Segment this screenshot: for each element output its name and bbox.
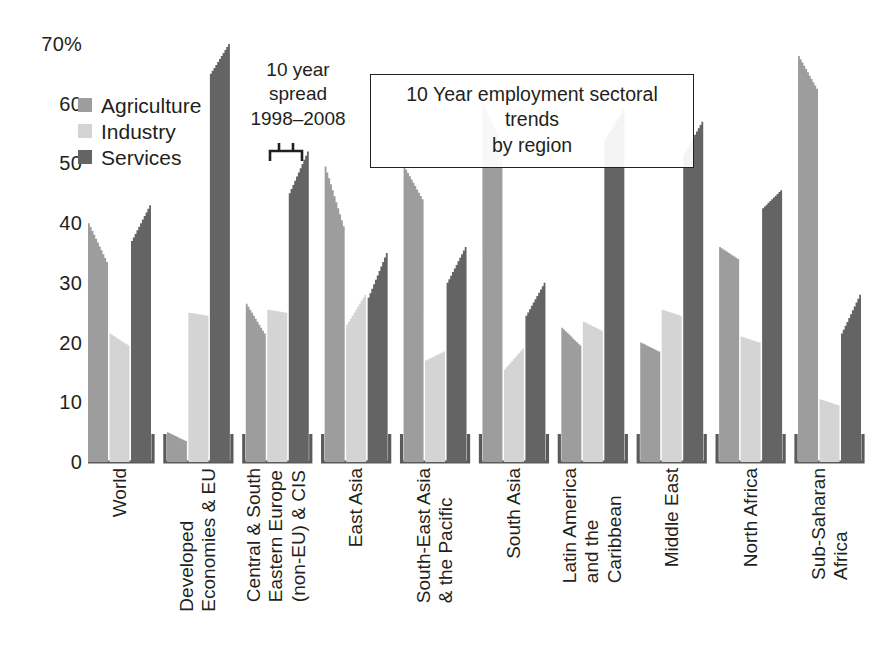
x-axis-label-line: (non-EU) & CIS: [288, 468, 310, 602]
bar-group: [88, 205, 153, 462]
bar-agriculture: [246, 304, 266, 462]
x-axis-label: South Asia: [503, 468, 525, 559]
bar-agriculture: [561, 328, 581, 462]
bar-agriculture: [167, 432, 187, 462]
bar-group: [796, 56, 863, 462]
chart-title-line2: by region: [381, 133, 683, 158]
x-axis-label: World: [108, 468, 130, 517]
bar-services: [762, 190, 782, 462]
y-axis-tick: 40: [59, 213, 82, 233]
x-axis-label-line: Caribbean: [604, 468, 626, 583]
x-axis-label-line: Sub-Saharan: [807, 468, 829, 580]
x-axis-label-line: North Africa: [739, 468, 761, 567]
y-axis: 70%6050403020100: [24, 0, 82, 653]
x-axis-label-line: Developed: [176, 468, 198, 612]
x-axis-label-group: South Asia: [482, 468, 545, 653]
bar-services: [447, 247, 467, 462]
x-axis-label: DevelopedEconomies & EU: [176, 468, 221, 612]
bar-services: [525, 283, 545, 462]
y-axis-tick: 0: [71, 452, 82, 472]
y-axis-tick: 10: [59, 392, 82, 412]
bar-services: [683, 122, 703, 462]
bar-services: [210, 44, 230, 462]
bar-agriculture: [88, 223, 108, 462]
x-axis-label-group: Middle East: [640, 468, 703, 653]
bar-agriculture: [719, 247, 739, 462]
bar-agriculture: [325, 166, 345, 462]
bar-agriculture: [404, 166, 424, 462]
x-axis-label-group: North Africa: [719, 468, 782, 653]
bar-group: [717, 190, 784, 462]
x-axis-label-line: & the Pacific: [435, 468, 457, 603]
bar-services: [289, 151, 309, 462]
bar-industry: [425, 352, 445, 462]
bar-industry: [110, 334, 130, 462]
bar-industry: [267, 310, 287, 462]
bar-industry: [662, 310, 682, 462]
bar-group: [638, 122, 705, 462]
x-axis-label-group: East Asia: [325, 468, 388, 653]
x-axis-label-line: World: [108, 468, 130, 517]
x-axis-label-line: Economies & EU: [198, 468, 220, 612]
bar-group: [402, 166, 469, 462]
bar-industry: [346, 295, 366, 462]
y-axis-tick: 30: [59, 273, 82, 293]
x-axis-label: North Africa: [739, 468, 761, 567]
x-axis-label-line: and the: [582, 468, 604, 583]
chart-title-line1: 10 Year employment sectoral trends: [381, 82, 683, 133]
x-axis-label: Middle East: [661, 468, 683, 567]
x-axis-label: Latin Americaand theCaribbean: [559, 468, 626, 583]
bar-group: [244, 151, 311, 462]
x-axis-label-group: World: [88, 468, 151, 653]
x-axis-label: South-East Asia& the Pacific: [413, 468, 458, 603]
bar-industry: [583, 322, 603, 462]
chart-page: 70%6050403020100 Agriculture Industry Se…: [0, 0, 883, 653]
bar-services: [841, 295, 861, 462]
x-axis-label-line: Africa: [830, 468, 852, 580]
bar-services: [368, 253, 388, 462]
x-axis-label-line: Central & South: [244, 468, 266, 602]
x-axis-label-line: Middle East: [661, 468, 683, 567]
x-axis-label-line: Eastern Europe: [266, 468, 288, 602]
x-axis-labels: WorldDevelopedEconomies & EUCentral & So…: [88, 468, 868, 653]
x-axis-label-group: Sub-SaharanAfrica: [798, 468, 861, 653]
bar-agriculture: [640, 343, 660, 462]
bar-services: [131, 205, 151, 462]
bar-industry: [820, 399, 840, 462]
x-axis-label: East Asia: [345, 468, 367, 547]
bar-industry: [188, 313, 208, 462]
y-axis-tick: 70%: [41, 34, 82, 54]
x-axis-label-group: Central & SouthEastern Europe(non-EU) & …: [246, 468, 309, 653]
x-axis-label-line: South-East Asia: [413, 468, 435, 603]
bar-group: [323, 166, 390, 462]
chart-title-box: 10 Year employment sectoral trends by re…: [370, 74, 694, 168]
x-axis-label-group: Latin Americaand theCaribbean: [561, 468, 624, 653]
x-axis-label-line: Latin America: [559, 468, 581, 583]
bar-industry: [741, 337, 761, 462]
x-axis-label: Sub-SaharanAfrica: [807, 468, 852, 580]
x-axis-label-group: South-East Asia& the Pacific: [404, 468, 467, 653]
x-axis-label-line: South Asia: [503, 468, 525, 559]
bar-agriculture: [798, 56, 818, 462]
bar-group: [165, 44, 232, 462]
x-axis-label-line: East Asia: [345, 468, 367, 547]
y-axis-tick: 20: [59, 333, 82, 353]
x-axis-label-group: DevelopedEconomies & EU: [167, 468, 230, 653]
bar-industry: [504, 349, 524, 462]
x-axis-label: Central & SouthEastern Europe(non-EU) & …: [244, 468, 311, 602]
